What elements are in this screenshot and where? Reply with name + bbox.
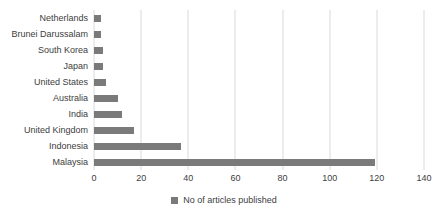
bar-row: Malaysia: [94, 154, 424, 170]
bar-row: United Kingdom: [94, 122, 424, 138]
bar-row: United States: [94, 74, 424, 90]
bar-row: India: [94, 106, 424, 122]
bar: [94, 15, 101, 22]
bar-row: Indonesia: [94, 138, 424, 154]
bar-row: Brunei Darussalam: [94, 26, 424, 42]
bar: [94, 111, 122, 118]
y-axis-category-label: United States: [34, 74, 88, 90]
bar: [94, 79, 106, 86]
bar: [94, 47, 103, 54]
x-axis-tick-label: 120: [369, 173, 384, 184]
y-axis-category-label: Indonesia: [49, 138, 88, 154]
bar: [94, 95, 118, 102]
bar: [94, 63, 103, 70]
y-axis-category-label: United Kingdom: [24, 122, 88, 138]
bar-row: Japan: [94, 58, 424, 74]
y-axis-category-label: Malaysia: [52, 154, 88, 170]
x-axis-tick-label: 80: [278, 173, 288, 184]
y-axis-category-label: South Korea: [38, 42, 88, 58]
bar: [94, 127, 134, 134]
y-axis-category-label: Netherlands: [39, 10, 88, 26]
bar: [94, 143, 181, 150]
x-axis: 020406080100120140: [94, 173, 424, 185]
bar-row: Netherlands: [94, 10, 424, 26]
x-axis-tick-label: 40: [183, 173, 193, 184]
y-axis-category-label: Brunei Darussalam: [11, 26, 88, 42]
x-axis-tick-label: 140: [416, 173, 431, 184]
bar-row: Australia: [94, 90, 424, 106]
bar: [94, 31, 101, 38]
y-axis-category-label: India: [68, 106, 88, 122]
x-axis-tick-label: 60: [230, 173, 240, 184]
plot-area: NetherlandsBrunei DarussalamSouth KoreaJ…: [94, 10, 424, 170]
legend-label: No of articles published: [183, 195, 277, 205]
legend: No of articles published: [0, 195, 448, 205]
x-axis-tick-label: 0: [91, 173, 96, 184]
x-axis-tick-label: 100: [322, 173, 337, 184]
bar-chart-figure: NetherlandsBrunei DarussalamSouth KoreaJ…: [0, 0, 448, 215]
x-axis-tick-label: 20: [136, 173, 146, 184]
y-axis-category-label: Australia: [53, 90, 88, 106]
bar-row: South Korea: [94, 42, 424, 58]
bar-rows: NetherlandsBrunei DarussalamSouth KoreaJ…: [94, 10, 424, 170]
y-axis-category-label: Japan: [63, 58, 88, 74]
bar: [94, 159, 375, 166]
legend-swatch-icon: [171, 197, 178, 204]
